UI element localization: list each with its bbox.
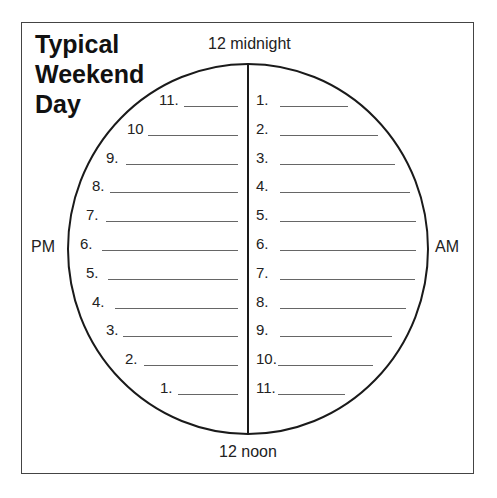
am-hour-blank[interactable] [280, 308, 406, 309]
am-hour-blank[interactable] [278, 394, 345, 395]
pm-hour-blank[interactable] [144, 365, 238, 366]
pm-hour-blank[interactable] [110, 192, 238, 193]
am-hour-blank[interactable] [278, 365, 373, 366]
am-hour-number: 9. [256, 322, 269, 338]
pm-hour-blank[interactable] [178, 394, 238, 395]
pm-hour-blank[interactable] [102, 250, 238, 251]
am-hour-number: 6. [256, 236, 269, 252]
pm-hour-blank[interactable] [126, 164, 238, 165]
am-hour-number: 1. [256, 92, 269, 108]
pm-hour-blank[interactable] [115, 308, 238, 309]
am-hour-blank[interactable] [280, 336, 392, 337]
am-hour-number: 11. [256, 380, 276, 396]
pm-hour-number: 5. [86, 265, 99, 281]
pm-hour-number: 11. [159, 92, 179, 108]
pm-hour-blank[interactable] [148, 135, 238, 136]
pm-hour-number: 7. [86, 207, 99, 223]
am-hour-number: 8. [256, 294, 269, 310]
pm-hour-number: 2. [125, 351, 138, 367]
am-hour-blank[interactable] [280, 106, 348, 107]
pm-hour-blank[interactable] [123, 336, 238, 337]
am-hour-number: 7. [256, 265, 269, 281]
clock-dial [0, 0, 497, 498]
am-hour-number: 3. [256, 150, 269, 166]
am-hour-number: 10. [256, 351, 277, 367]
am-hour-number: 4. [256, 178, 269, 194]
pm-hour-blank[interactable] [108, 279, 238, 280]
am-hour-number: 5. [256, 207, 269, 223]
pm-hour-number: 10 [127, 121, 144, 137]
pm-hour-number: 6. [80, 236, 93, 252]
am-hour-blank[interactable] [280, 279, 415, 280]
am-hour-blank[interactable] [280, 135, 378, 136]
pm-hour-number: 9. [106, 150, 119, 166]
pm-hour-number: 1. [160, 380, 173, 396]
pm-hour-number: 3. [106, 322, 119, 338]
pm-hour-blank[interactable] [106, 221, 238, 222]
pm-hour-number: 8. [92, 178, 105, 194]
am-hour-blank[interactable] [280, 192, 410, 193]
am-hour-blank[interactable] [280, 164, 395, 165]
pm-hour-blank[interactable] [184, 106, 238, 107]
am-hour-number: 2. [256, 121, 269, 137]
am-hour-blank[interactable] [280, 221, 416, 222]
pm-hour-number: 4. [92, 294, 105, 310]
am-hour-blank[interactable] [280, 250, 416, 251]
